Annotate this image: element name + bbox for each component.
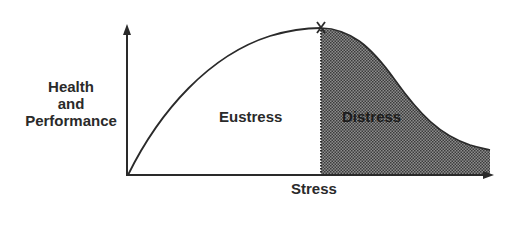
y-axis-label-line-3: Performance <box>14 112 128 129</box>
y-axis-label-line-1: Health <box>14 78 128 95</box>
y-axis-arrow-icon <box>123 24 131 35</box>
x-axis-label: Stress <box>291 180 337 197</box>
performance-curve-rising <box>128 28 321 175</box>
y-axis-label-line-2: and <box>14 95 128 112</box>
y-axis-label: Health and Performance <box>14 78 128 129</box>
distress-label: Distress <box>342 108 401 125</box>
eustress-label: Eustress <box>219 108 282 125</box>
distress-region <box>321 29 490 175</box>
